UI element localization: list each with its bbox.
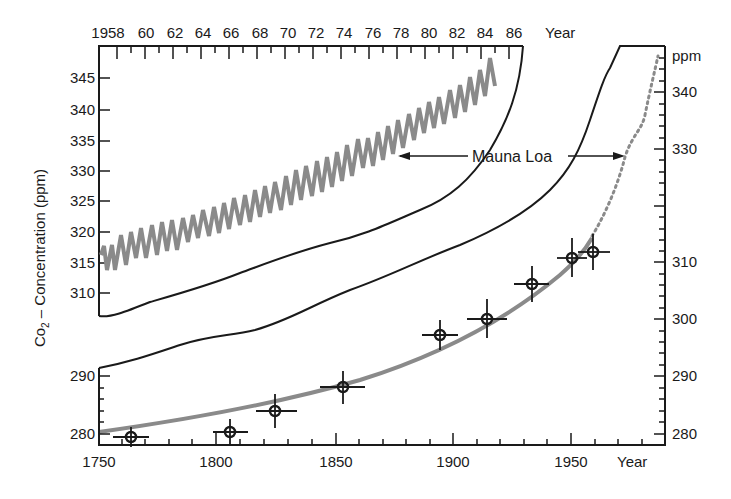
svg-text:66: 66: [223, 24, 240, 41]
svg-text:325: 325: [70, 192, 95, 209]
left-lower-y-tick-labels: 290 280: [70, 367, 95, 442]
svg-text:70: 70: [280, 24, 297, 41]
ice-core-fitted-curve: [99, 238, 592, 432]
svg-text:1958: 1958: [91, 24, 124, 41]
svg-text:290: 290: [70, 367, 95, 384]
co2-chart: 1958 60 62 64 66 68 70 72 74 76 78 80 82…: [0, 0, 731, 499]
right-y-tick-labels: 340 330 310 300 290 280: [672, 83, 697, 442]
svg-text:80: 80: [421, 24, 438, 41]
top-x-ticks: [117, 46, 509, 59]
svg-text:340: 340: [70, 101, 95, 118]
bottom-x-ticks: [122, 433, 642, 445]
svg-text:60: 60: [138, 24, 155, 41]
data-point: [514, 266, 549, 302]
svg-text:62: 62: [167, 24, 184, 41]
data-point: [578, 234, 610, 270]
left-lower-y-ticks: [99, 376, 110, 434]
svg-text:310: 310: [70, 284, 95, 301]
svg-text:300: 300: [672, 310, 697, 327]
right-unit-label: ppm: [672, 47, 701, 64]
mauna-loa-series: [101, 58, 495, 270]
svg-text:315: 315: [70, 254, 95, 271]
svg-text:86: 86: [506, 24, 523, 41]
svg-text:330: 330: [672, 140, 697, 157]
svg-text:82: 82: [449, 24, 466, 41]
svg-text:280: 280: [672, 425, 697, 442]
svg-text:64: 64: [195, 24, 212, 41]
y-axis-title: Co2 – Concentration (ppm): [31, 169, 51, 347]
svg-text:1850: 1850: [319, 453, 352, 470]
right-y-ticks: [654, 58, 665, 434]
bottom-year-label: Year: [617, 453, 647, 470]
svg-text:Mauna Loa: Mauna Loa: [472, 148, 552, 165]
svg-text:84: 84: [477, 24, 494, 41]
svg-text:310: 310: [672, 253, 697, 270]
svg-text:76: 76: [365, 24, 382, 41]
svg-text:1900: 1900: [436, 453, 469, 470]
svg-text:78: 78: [393, 24, 410, 41]
middle-panel-boundary: [99, 46, 665, 368]
svg-text:74: 74: [336, 24, 353, 41]
svg-text:320: 320: [70, 223, 95, 240]
svg-text:68: 68: [252, 24, 269, 41]
svg-text:330: 330: [70, 162, 95, 179]
svg-text:290: 290: [672, 367, 697, 384]
svg-text:72: 72: [308, 24, 325, 41]
svg-text:1950: 1950: [554, 453, 587, 470]
bottom-x-tick-labels: 1750 1800 1850 1900 1950: [82, 453, 587, 470]
svg-text:340: 340: [672, 83, 697, 100]
svg-text:345: 345: [70, 69, 95, 86]
svg-text:335: 335: [70, 132, 95, 149]
svg-text:1750: 1750: [82, 453, 115, 470]
svg-text:280: 280: [70, 425, 95, 442]
ice-core-data-points: [113, 234, 610, 447]
svg-text:1800: 1800: [199, 453, 232, 470]
data-point: [320, 371, 365, 404]
left-upper-y-tick-labels: 345 340 335 330 325 320 315 310: [70, 69, 95, 301]
data-point: [213, 419, 248, 445]
mauna-loa-annotation: Mauna Loa: [398, 148, 625, 165]
lower-axes: [99, 46, 665, 445]
top-year-label: Year: [545, 24, 575, 41]
top-x-tick-labels: 1958 60 62 64 66 68 70 72 74 76 78 80 82…: [91, 24, 522, 41]
